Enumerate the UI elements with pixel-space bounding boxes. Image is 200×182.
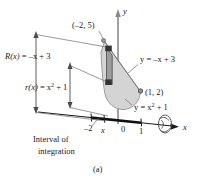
point-1-2-marker (138, 89, 142, 93)
svg-text:y = x2 + 1: y = x2 + 1 (134, 102, 168, 112)
outer-radius-eq: = –x + 3 (20, 51, 51, 61)
revolution-icon (159, 115, 172, 133)
point-minus2-5-leader (99, 31, 103, 38)
interval-label-line2: integration (38, 146, 76, 156)
svg-text:r(x) = x2 + 1: r(x) = x2 + 1 (25, 82, 67, 92)
line-equation-label: y = –x + 3 (140, 54, 175, 64)
tick-label-1: 1 (139, 126, 143, 136)
point-minus2-5-label: (–2, 5) (72, 20, 95, 30)
inner-radius-label: r(x) = x2 + 1 (25, 82, 67, 92)
slant-axis-label: x (100, 125, 105, 135)
y-axis-label: y (122, 6, 127, 16)
figure-caption: (a) (93, 164, 103, 174)
inner-radius-tail: + 1 (54, 82, 67, 92)
outer-radius-label: R(x) = –x + 3 (4, 51, 50, 61)
parabola-eq-pre: y = x (134, 102, 152, 112)
x-axis-label: x (182, 122, 187, 132)
outer-radius-fn: R(x) (4, 51, 20, 61)
point-minus2-5-marker (102, 39, 106, 43)
line-equation-leader (128, 65, 139, 74)
inner-radius-fn: r(x) (25, 82, 38, 92)
washer-method-figure: y x –2 x 0 1 (–2, 5) (1, 2) y = –x + 3 y… (0, 0, 200, 182)
figure-container: y x –2 x 0 1 (–2, 5) (1, 2) y = –x + 3 y… (0, 0, 200, 182)
point-1-2-label: (1, 2) (145, 87, 164, 97)
origin-label: 0 (121, 124, 125, 134)
interval-label-line1: Interval of (33, 134, 69, 144)
inner-radius-eq: = x (38, 82, 52, 92)
strip-top-marker (105, 46, 112, 52)
parabola-eq-post: + 1 (155, 102, 168, 112)
tick-label-minus-2: –2 (83, 123, 93, 133)
svg-text:R(x) = –x + 3: R(x) = –x + 3 (4, 51, 50, 61)
parabola-equation-label: y = x2 + 1 (134, 102, 168, 112)
strip-bottom-marker (105, 79, 112, 85)
